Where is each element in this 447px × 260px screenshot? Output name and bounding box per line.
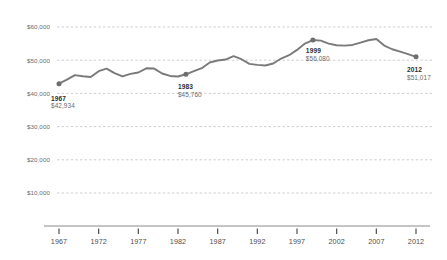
data-series-group	[59, 39, 416, 84]
annotation-year: 1999	[306, 47, 330, 55]
data-point-markers-group	[57, 38, 419, 87]
x-axis-tick-label: 1997	[277, 237, 317, 246]
data-point-marker	[310, 38, 315, 43]
y-axis-tick-label: $40,000	[14, 90, 50, 97]
x-axis-tick-label: 1987	[198, 237, 238, 246]
data-point-annotation: 1967 $42,934	[51, 95, 75, 110]
y-axis-tick-label: $60,000	[14, 23, 50, 30]
x-axis-tick-label: 1972	[79, 237, 119, 246]
annotation-year: 1983	[178, 83, 202, 91]
x-axis-tick-label: 1977	[118, 237, 158, 246]
annotation-year: 1967	[51, 95, 75, 103]
annotation-value: $56,080	[306, 55, 330, 63]
y-axis-tick-label: $20,000	[14, 156, 50, 163]
annotation-value: $42,934	[51, 102, 75, 110]
chart-canvas	[0, 0, 447, 260]
data-point-annotation: 1983 $45,760	[178, 83, 202, 98]
annotation-value: $51,017	[407, 74, 431, 82]
x-axis-tick-label: 1967	[39, 237, 79, 246]
y-axis-tick-label: $50,000	[14, 57, 50, 64]
annotation-value: $45,760	[178, 91, 202, 99]
data-point-marker	[183, 72, 188, 77]
x-axis-tick-label: 2012	[396, 237, 436, 246]
x-axis-tick-label: 2002	[317, 237, 357, 246]
data-point-marker	[414, 54, 419, 59]
x-axis-group	[44, 226, 430, 234]
income-line	[59, 39, 416, 84]
data-point-annotation: 1999 $56,080	[306, 47, 330, 62]
x-axis-tick-label: 1982	[158, 237, 198, 246]
data-point-marker	[57, 81, 62, 86]
line-chart: $60,000 $50,000 $40,000 $30,000 $20,000 …	[0, 0, 447, 260]
y-axis-tick-label: $30,000	[14, 123, 50, 130]
data-point-annotation: 2012 $51,017	[407, 66, 431, 81]
x-axis-tick-label: 2007	[356, 237, 396, 246]
gridlines-group	[57, 27, 432, 193]
annotation-year: 2012	[407, 66, 431, 74]
x-axis-tick-label: 1992	[237, 237, 277, 246]
y-axis-tick-label: $10,000	[14, 189, 50, 196]
